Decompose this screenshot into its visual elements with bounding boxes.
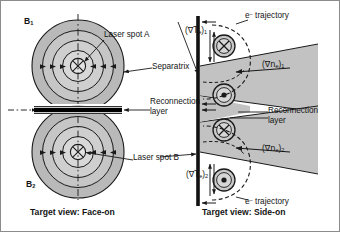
label-grad-te-2: (∇Te)2 <box>186 170 208 182</box>
caption-side-on: Target view: Side-on <box>202 208 285 218</box>
field-marker-into-page-1 <box>213 35 235 57</box>
label-e-trajectory-bottom: e− trajectory <box>245 196 289 207</box>
label-grad-te-1: (∇Te)1 <box>185 26 207 38</box>
figure-root: B1 B2 Laser spot A Separatrix Reconnecti… <box>0 0 340 232</box>
caption-face-on: Target view: Face-on <box>30 208 115 218</box>
reconnection-layer-bar <box>34 108 122 112</box>
label-laser-spot-a: Laser spot A <box>104 30 150 40</box>
label-grad-ne-2: (∇ne)2 <box>262 144 284 156</box>
label-reconnection-left: Reconnection layer <box>150 97 200 116</box>
field-marker-out-of-page-1 <box>213 84 235 106</box>
label-grad-ne-1: (∇ne)1 <box>262 60 284 72</box>
field-label-b1: B1 <box>24 17 33 29</box>
label-reconnection-right: Reconnection layer <box>268 106 318 125</box>
label-laser-spot-b: Laser spot B <box>133 153 179 163</box>
field-marker-out-of-page-2 <box>213 169 235 191</box>
field-marker-into-page-2 <box>213 119 235 141</box>
label-separatrix: Separatrix <box>152 62 189 72</box>
field-label-b2: B2 <box>26 180 35 192</box>
label-e-trajectory-top: e− trajectory <box>245 10 289 21</box>
